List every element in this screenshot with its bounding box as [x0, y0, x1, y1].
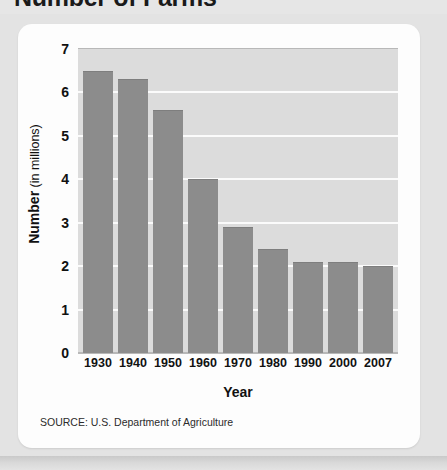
bar-slot: [83, 49, 113, 353]
plot-area: 01234567: [78, 48, 398, 353]
bar-slot: [223, 49, 253, 353]
y-axis-tick-label: 3: [61, 216, 69, 230]
y-axis-tick-label: 4: [61, 172, 69, 186]
y-axis-tick-label: 7: [61, 42, 69, 56]
bar-2000: [328, 262, 358, 353]
page-title: Number of Farms: [14, 0, 216, 12]
bar-1960: [188, 179, 218, 353]
y-axis-tick-label: 2: [61, 259, 69, 273]
x-axis-tick-label: 2000: [328, 356, 358, 370]
chart-title-strip: Number of Farms: [0, 0, 447, 14]
y-axis-tick-label: 5: [61, 129, 69, 143]
x-axis-tick-label: 1960: [188, 356, 218, 370]
page-shadow: [0, 456, 447, 470]
x-axis-title: Year: [78, 384, 398, 400]
bar-1940: [118, 79, 148, 353]
y-axis-title-main: Number: [26, 191, 42, 244]
bar-slot: [188, 49, 218, 353]
x-axis-tick-label: 1970: [223, 356, 253, 370]
x-axis-tick-label: 1930: [83, 356, 113, 370]
x-axis-tick-label: 2007: [363, 356, 393, 370]
bar-chart-figure: Number (in millions) 01234567 1930194019…: [18, 24, 420, 448]
bar-slot: [258, 49, 288, 353]
y-axis-title-unit: (in millions): [28, 124, 42, 191]
bar-1990: [293, 262, 323, 353]
bar-1970: [223, 227, 253, 353]
bar-series: [78, 49, 398, 353]
bar-slot: [293, 49, 323, 353]
x-axis-tick-label: 1940: [118, 356, 148, 370]
y-axis-tick-label: 1: [61, 303, 69, 317]
x-axis-tick-labels: 193019401950196019701980199020002007: [78, 356, 398, 370]
bar-slot: [153, 49, 183, 353]
bar-slot: [328, 49, 358, 353]
bar-2007: [363, 266, 393, 353]
y-axis-tick-label: 0: [61, 346, 69, 360]
bar-1950: [153, 110, 183, 353]
x-axis-tick-label: 1990: [293, 356, 323, 370]
chart-card: Number (in millions) 01234567 1930194019…: [18, 24, 420, 448]
y-axis-tick-label: 6: [61, 85, 69, 99]
x-axis-tick-label: 1980: [258, 356, 288, 370]
bar-slot: [118, 49, 148, 353]
x-axis-tick-label: 1950: [153, 356, 183, 370]
source-note: SOURCE: U.S. Department of Agriculture: [40, 416, 233, 428]
bar-1930: [83, 71, 113, 353]
y-axis-title: Number (in millions): [26, 94, 42, 274]
bar-1980: [258, 249, 288, 353]
bar-slot: [363, 49, 393, 353]
